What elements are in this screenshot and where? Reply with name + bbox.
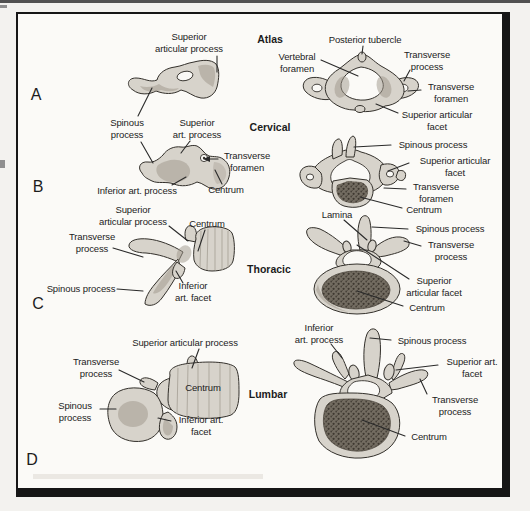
- lumbar-superior-view-illustration: [294, 329, 428, 458]
- label-superior-articular-process-lumbar-lateral: Superior articular process: [132, 337, 238, 349]
- label-centrum-cervical-lateral: Centrum: [208, 184, 244, 196]
- label-spinous-process-thoracic-lateral: Spinous process: [47, 283, 116, 295]
- label-spinous-process-lumbar-superior: Spinous process: [398, 335, 467, 347]
- label-lamina-thoracic-superior: Lamina: [322, 209, 353, 221]
- cervical-superior-view-illustration: [300, 136, 406, 207]
- label-transverse-process-thoracic-lateral: Transverse process: [69, 231, 115, 256]
- label-transverse-foramen-cervical-lateral: Transverse foramen: [224, 150, 270, 175]
- panel-letter-d: D: [26, 451, 38, 469]
- label-inferior-art-facet-thoracic-lateral: Inferior art. facet: [175, 280, 211, 305]
- label-transverse-process-thoracic-superior: Transverse process: [428, 239, 474, 264]
- section-header-lumbar: Lumbar: [249, 388, 288, 400]
- label-spinous-process-shared: Spinous process: [110, 117, 144, 142]
- section-header-cervical: Cervical: [250, 121, 291, 133]
- label-superior-articular-facet-cervical-superior: Superior articular facet: [420, 155, 491, 180]
- label-centrum-lumbar-lateral: Centrum: [185, 382, 221, 394]
- label-superior-articular-process-atlas-lateral: Superior articular process: [155, 31, 223, 56]
- panel-letter-a: A: [31, 86, 42, 104]
- label-posterior-tubercle-atlas: Posterior tubercle: [329, 34, 402, 46]
- label-inferior-art-process-lumbar-superior: Inferior art. process: [295, 322, 343, 347]
- thoracic-superior-view-illustration: [307, 216, 410, 314]
- label-transverse-process-lumbar-superior: Transverse process: [432, 394, 478, 419]
- label-spinous-process-lumbar-lateral: Spinous process: [58, 400, 92, 425]
- label-centrum-cervical-superior: Centrum: [406, 204, 442, 216]
- label-superior-art-process-cervical-lateral: Superior art. process: [173, 117, 221, 142]
- label-superior-art-facet-lumbar-superior: Superior art. facet: [447, 356, 498, 381]
- label-inferior-art-process-cervical-lateral: Inferior art. process: [97, 185, 177, 197]
- label-transverse-process-atlas: Transverse process: [404, 49, 450, 74]
- label-superior-articular-facet-atlas: Superior articular facet: [402, 109, 473, 134]
- label-superior-articular-process-thoracic-lateral: Superior articular process: [99, 204, 167, 229]
- atlas-superior-view-illustration: [303, 52, 418, 113]
- label-inferior-art-facet-lumbar-lateral: Inferior art. facet: [179, 414, 224, 439]
- section-header-atlas: Atlas: [257, 33, 283, 45]
- label-centrum-thoracic-superior: Centrum: [409, 302, 445, 314]
- label-transverse-foramen-cervical-superior: Transverse foramen: [413, 181, 459, 206]
- atlas-lateral-view-illustration: [128, 60, 218, 98]
- anatomy-figure-page: A B C D Atlas Cervical Thoracic Lumbar S…: [0, 0, 530, 511]
- label-spinous-process-cervical-superior: Spinous process: [399, 139, 468, 151]
- label-vertebral-foramen-atlas: Vertebral foramen: [278, 51, 315, 76]
- label-transverse-foramen-atlas: Transverse foramen: [428, 81, 474, 106]
- label-superior-articular-facet-thoracic-superior: Superior articular facet: [406, 275, 462, 300]
- label-centrum-thoracic-lateral: Centrum: [189, 218, 225, 230]
- label-spinous-process-thoracic-superior: Spinous process: [416, 223, 485, 235]
- cervical-lateral-view-illustration: [140, 145, 230, 189]
- label-transverse-process-lumbar-lateral: Transverse process: [73, 356, 119, 381]
- label-centrum-lumbar-superior: Centrum: [411, 431, 447, 443]
- panel-letter-c: C: [32, 295, 44, 313]
- panel-letter-b: B: [33, 178, 44, 196]
- section-header-thoracic: Thoracic: [247, 263, 291, 275]
